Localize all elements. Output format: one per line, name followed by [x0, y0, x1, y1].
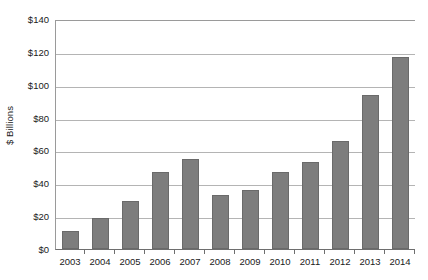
bar-slot — [385, 21, 415, 249]
x-axis-tick-mark — [325, 250, 355, 254]
y-axis-tick-label: $80 — [33, 114, 49, 124]
x-axis-tick-label: 2011 — [295, 256, 325, 272]
bar-slot — [86, 21, 116, 249]
x-axis-tick-mark — [235, 250, 265, 254]
x-axis-tick-mark — [115, 250, 145, 254]
x-axis-tick-labels: 2003200420052006200720082009201020112012… — [55, 256, 415, 272]
bar-chart: $ Billions $0$20$40$60$80$100$120$140 20… — [0, 0, 428, 280]
y-axis-tick-label: $60 — [33, 146, 49, 156]
bar[interactable] — [272, 172, 289, 249]
y-axis-title: $ Billions — [0, 0, 20, 250]
bar[interactable] — [122, 201, 139, 249]
x-axis-tick-mark — [55, 250, 85, 254]
bar-slot — [295, 21, 325, 249]
bar-slot — [325, 21, 355, 249]
x-axis-tick-label: 2008 — [205, 256, 235, 272]
x-axis-tick-mark — [85, 250, 115, 254]
y-axis-tick-label: $100 — [28, 81, 49, 91]
bar[interactable] — [182, 159, 199, 249]
bar-slot — [56, 21, 86, 249]
y-axis-tick-label: $40 — [33, 179, 49, 189]
x-axis-tick-label: 2012 — [325, 256, 355, 272]
x-axis-tick-label: 2005 — [115, 256, 145, 272]
y-axis-tick-label: $0 — [38, 245, 49, 255]
x-axis-tick-label: 2009 — [235, 256, 265, 272]
bar[interactable] — [92, 218, 109, 249]
bar-slot — [236, 21, 266, 249]
x-axis-tick-mark — [355, 250, 385, 254]
y-axis-tick-labels: $0$20$40$60$80$100$120$140 — [18, 0, 53, 260]
x-axis-tick-label: 2013 — [355, 256, 385, 272]
x-axis-tick-label: 2010 — [265, 256, 295, 272]
bar[interactable] — [392, 57, 409, 249]
bar-slot — [176, 21, 206, 249]
bar[interactable] — [362, 95, 379, 249]
plot-area — [55, 20, 415, 250]
bar-slot — [355, 21, 385, 249]
x-axis-tick-mark — [205, 250, 235, 254]
x-axis-tick-label: 2014 — [385, 256, 415, 272]
bar-slot — [116, 21, 146, 249]
bar-slot — [146, 21, 176, 249]
x-axis-tick-label: 2004 — [85, 256, 115, 272]
x-axis-tick-mark — [265, 250, 295, 254]
bar[interactable] — [332, 141, 349, 249]
x-axis-tick-label: 2006 — [145, 256, 175, 272]
bar[interactable] — [62, 231, 79, 249]
x-axis-tick-mark — [175, 250, 205, 254]
bars-group — [56, 21, 415, 249]
x-axis-tick-marks — [55, 250, 415, 254]
bar[interactable] — [302, 162, 319, 249]
x-axis-tick-label: 2003 — [55, 256, 85, 272]
x-axis-tick-label: 2007 — [175, 256, 205, 272]
x-axis-tick-mark — [385, 250, 415, 254]
y-axis-tick-label: $120 — [28, 48, 49, 58]
bar[interactable] — [212, 195, 229, 249]
x-axis-tick-mark — [145, 250, 175, 254]
y-axis-tick-label: $140 — [28, 15, 49, 25]
bar[interactable] — [152, 172, 169, 249]
bar[interactable] — [242, 190, 259, 249]
bar-slot — [265, 21, 295, 249]
x-axis-tick-mark — [295, 250, 325, 254]
y-axis-tick-label: $20 — [33, 212, 49, 222]
y-axis-title-label: $ Billions — [5, 105, 16, 144]
bar-slot — [206, 21, 236, 249]
